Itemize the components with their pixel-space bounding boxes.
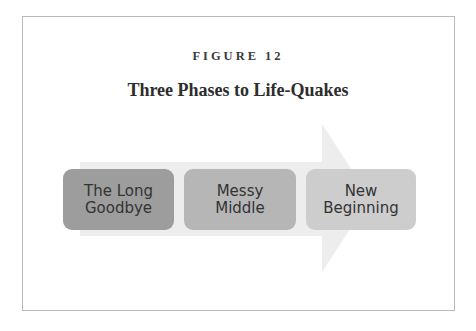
phase-label: The Long Goodbye — [84, 183, 153, 217]
phase-box-messy-middle: Messy Middle — [184, 169, 296, 230]
phase-box-new-beginning: New Beginning — [306, 169, 416, 230]
phase-label: Messy Middle — [215, 183, 265, 217]
progress-arrow — [0, 0, 476, 331]
phase-label: New Beginning — [323, 183, 398, 217]
phase-box-long-goodbye: The Long Goodbye — [63, 169, 174, 230]
